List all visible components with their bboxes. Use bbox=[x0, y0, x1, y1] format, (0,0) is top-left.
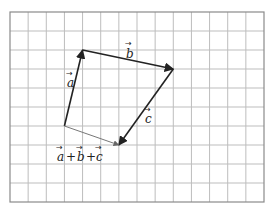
label-vector-a: → a bbox=[66, 69, 74, 90]
svg-text:a: a bbox=[67, 76, 74, 90]
vector-sum-arrow bbox=[64, 126, 118, 145]
svg-text:b: b bbox=[126, 47, 134, 61]
svg-text:+: + bbox=[86, 150, 96, 164]
label-vector-sum: → a + → b + → c bbox=[56, 143, 103, 164]
label-vector-c: → c bbox=[144, 105, 152, 126]
svg-text:b: b bbox=[77, 150, 85, 164]
vector-diagram: → a → b → c → a + → b + → c bbox=[0, 0, 271, 211]
svg-text:+: + bbox=[66, 150, 76, 164]
svg-text:a: a bbox=[57, 150, 64, 164]
svg-text:c: c bbox=[145, 112, 152, 126]
label-vector-b: → b bbox=[125, 39, 134, 61]
svg-text:c: c bbox=[96, 150, 103, 164]
grid bbox=[10, 12, 264, 202]
